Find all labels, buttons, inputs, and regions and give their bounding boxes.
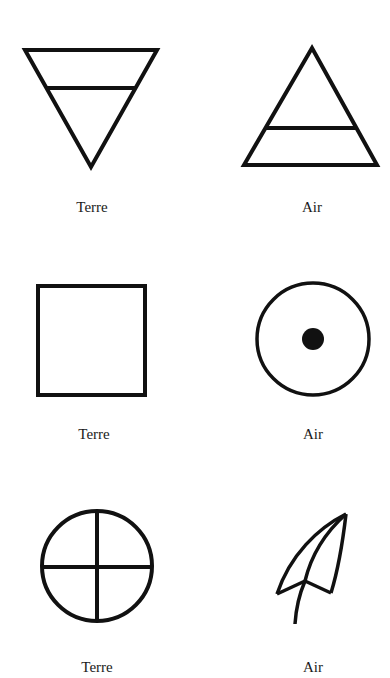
air-circle-dot-icon — [257, 283, 369, 395]
earth-square-icon — [38, 286, 145, 395]
air-feather-icon — [277, 514, 346, 624]
label-terre-row1: Terre — [76, 199, 107, 215]
earth-circle-cross-icon — [42, 510, 152, 622]
label-air-row3: Air — [303, 659, 323, 675]
label-terre-row3: Terre — [81, 659, 112, 675]
label-air-row1: Air — [302, 199, 322, 215]
label-air-row2: Air — [303, 426, 323, 442]
earth-inverted-triangle-icon — [25, 50, 157, 167]
element-symbols-figure — [0, 0, 390, 678]
label-terre-row2: Terre — [78, 426, 109, 442]
air-triangle-icon — [244, 48, 377, 165]
